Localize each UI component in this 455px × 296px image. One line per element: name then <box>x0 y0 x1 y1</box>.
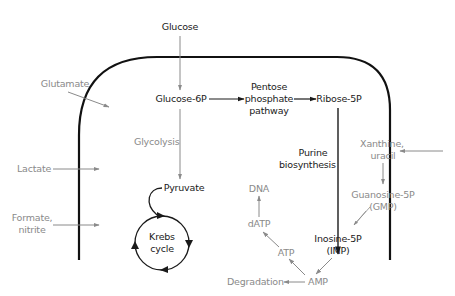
label-pentose-line3: pathway <box>244 105 294 117</box>
label-lactate: Lactate <box>17 163 51 175</box>
label-inosine-line1: Inosine-5P <box>312 233 364 245</box>
label-amp: AMP <box>305 276 331 288</box>
arrow-atp-datp <box>263 232 279 247</box>
cell-membrane <box>79 57 390 260</box>
label-datp: dATP <box>245 218 273 230</box>
label-pentose-line2: phosphate <box>244 93 294 105</box>
label-pyruvate: Pyruvate <box>163 182 205 194</box>
label-formate-line2: nitrite <box>16 224 48 236</box>
arrow-glutamate <box>68 92 109 107</box>
label-atp: ATP <box>274 247 298 259</box>
label-ribose-5p: Ribose-5P <box>316 93 362 105</box>
label-degradation: Degradation <box>227 276 283 288</box>
krebs-arrowhead-top <box>157 212 165 219</box>
label-inosine-line2: (IMP) <box>320 245 356 257</box>
arrow-pyruvate-krebs <box>149 188 162 215</box>
label-glucose: Glucose <box>158 21 202 33</box>
label-glycolysis: Glycolysis <box>134 136 178 148</box>
krebs-arrowhead-bottom <box>160 266 168 273</box>
label-glucose-6p: Glucose-6P <box>153 93 209 105</box>
label-guanosine-line1: Guanosine-5P <box>350 189 416 201</box>
krebs-arrowhead-left <box>131 241 139 249</box>
label-purine-line2: biosynthesis <box>279 159 335 171</box>
label-purine-line1: Purine <box>293 147 333 159</box>
arrow-imp-amp <box>316 258 332 274</box>
label-formate-line1: Formate, <box>11 212 53 224</box>
label-krebs-line2: cycle <box>146 243 178 255</box>
krebs-arrowhead-right <box>185 240 193 248</box>
label-krebs-line1: Krebs <box>146 231 178 243</box>
arrow-amp-atp <box>289 259 305 275</box>
label-dna: DNA <box>247 183 271 195</box>
label-xanthine-line1: Xanthine, <box>357 138 407 150</box>
label-pentose-line1: Pentose <box>244 81 294 93</box>
label-guanosine-line2: (GMP) <box>364 201 402 213</box>
label-xanthine-line2: uracil <box>362 150 404 162</box>
label-glutamate: Glutamate <box>40 78 90 90</box>
